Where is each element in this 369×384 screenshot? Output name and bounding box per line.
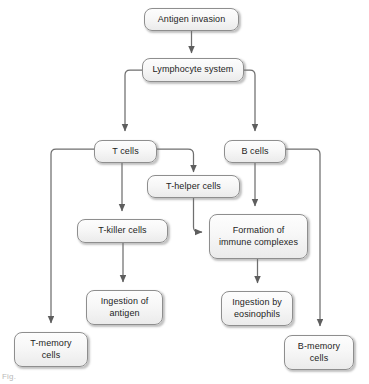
node-ingestion_eosinophils[interactable]: Ingestion by eosinophils xyxy=(221,291,293,326)
node-t_cells[interactable]: T cells xyxy=(94,140,157,163)
node-antigen_invasion[interactable]: Antigen invasion xyxy=(144,8,239,31)
node-label: Ingestion by eosinophils xyxy=(232,297,282,320)
node-ingestion_antigen[interactable]: Ingestion of antigen xyxy=(86,290,163,325)
e-lymphocyte-tcells xyxy=(125,70,142,131)
node-lymphocyte_system[interactable]: Lymphocyte system xyxy=(142,58,244,82)
node-t_memory_cells[interactable]: T-memory cells xyxy=(14,332,88,367)
node-label: T cells xyxy=(112,146,139,158)
node-label: Lymphocyte system xyxy=(153,64,234,76)
flowchart-canvas: Antigen invasionLymphocyte systemT cells… xyxy=(0,0,369,384)
node-label: T-helper cells xyxy=(166,181,221,193)
figure-caption: Fig. xyxy=(2,372,16,381)
node-label: B-memory cells xyxy=(298,341,340,364)
e-thelper-formation xyxy=(194,198,203,232)
node-b_cells[interactable]: B cells xyxy=(224,140,286,163)
node-b_memory_cells[interactable]: B-memory cells xyxy=(284,335,354,370)
e-tcells-thelper xyxy=(157,149,194,172)
node-label: Formation of immune complexes xyxy=(219,225,298,248)
node-label: B cells xyxy=(241,146,268,158)
node-label: T-killer cells xyxy=(98,225,146,237)
node-formation_complexes[interactable]: Formation of immune complexes xyxy=(209,214,308,259)
node-label: Antigen invasion xyxy=(158,14,226,26)
node-label: T-memory cells xyxy=(30,338,71,361)
node-t_helper_cells[interactable]: T-helper cells xyxy=(147,175,240,198)
node-label: Ingestion of antigen xyxy=(101,296,149,319)
node-t_killer_cells[interactable]: T-killer cells xyxy=(77,219,168,243)
e-lymphocyte-bcells xyxy=(244,70,255,131)
